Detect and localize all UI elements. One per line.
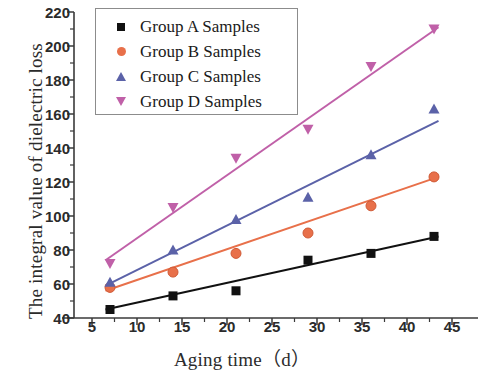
x-tick-label: 25	[252, 318, 292, 335]
legend-label: Group B Samples	[140, 42, 261, 62]
data-point-circle	[429, 172, 439, 182]
legend-item-group-c: Group C Samples	[96, 64, 297, 89]
data-point-square	[106, 305, 115, 314]
legend-label: Group D Samples	[140, 92, 262, 112]
x-tick-label: 40	[387, 318, 427, 335]
x-tick-label: 10	[117, 318, 157, 335]
circle-marker-icon	[110, 47, 132, 56]
x-tick-label: 15	[162, 318, 202, 335]
data-point-square	[367, 249, 376, 258]
data-point-triangle-down	[231, 154, 242, 164]
square-marker-icon	[110, 23, 132, 31]
data-point-triangle-up	[366, 149, 377, 159]
data-point-triangle-up	[429, 103, 440, 113]
legend-item-group-a: Group A Samples	[96, 14, 297, 39]
x-axis-tick-labels: 51015202530354045	[0, 318, 484, 340]
y-axis-title: The integral value of dielectric loss	[25, 41, 47, 321]
data-point-square	[169, 291, 178, 300]
legend-label: Group C Samples	[140, 67, 261, 87]
chart-legend: Group A Samples Group B Samples Group C …	[95, 8, 298, 115]
dielectric-loss-scatter-chart: 406080100120140160180200220 510152025303…	[0, 0, 484, 376]
x-tick-label: 30	[297, 318, 337, 335]
x-tick-label: 5	[72, 318, 112, 335]
data-point-triangle-up	[303, 192, 314, 202]
legend-label: Group A Samples	[140, 17, 260, 37]
data-point-square	[232, 286, 241, 295]
x-tick-label: 45	[432, 318, 472, 335]
figure-area: 406080100120140160180200220 510152025303…	[0, 0, 484, 376]
triangle-up-marker-icon	[110, 72, 132, 81]
data-point-square	[430, 232, 439, 241]
y-tick-label: 220	[34, 4, 70, 21]
data-point-square	[304, 256, 313, 265]
legend-item-group-d: Group D Samples	[96, 89, 297, 114]
legend-item-group-b: Group B Samples	[96, 39, 297, 64]
trend-line	[106, 121, 439, 286]
data-point-triangle-down	[303, 125, 314, 135]
data-point-circle	[303, 228, 313, 238]
triangle-down-marker-icon	[110, 97, 132, 106]
data-point-triangle-down	[105, 259, 116, 269]
data-point-triangle-down	[366, 62, 377, 72]
x-tick-label: 35	[342, 318, 382, 335]
data-point-circle	[168, 267, 178, 277]
x-tick-label: 20	[207, 318, 247, 335]
data-point-circle	[366, 201, 376, 211]
x-axis-title: Aging time（d）	[0, 344, 484, 371]
data-point-circle	[231, 248, 241, 258]
